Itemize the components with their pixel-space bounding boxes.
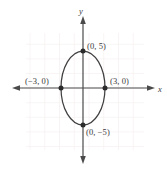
- point-top: [81, 49, 86, 54]
- point-bottom: [81, 123, 86, 128]
- point-label-top: (0, 5): [87, 41, 106, 51]
- point-left: [59, 86, 64, 91]
- y-axis-label: y: [79, 6, 83, 16]
- point-label-bottom: (0, −5): [86, 127, 110, 137]
- coordinate-plane-figure: (0, 5) (3, 0) (0, −5) (−3, 0) y x: [0, 0, 167, 171]
- point-label-right: (3, 0): [110, 76, 129, 86]
- point-label-left: (−3, 0): [25, 76, 49, 86]
- x-axis-label: x: [158, 84, 162, 94]
- point-right: [103, 86, 108, 91]
